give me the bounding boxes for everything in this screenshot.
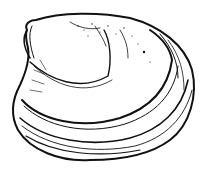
shell-illustration bbox=[0, 0, 206, 178]
clam-shell-icon bbox=[0, 0, 206, 178]
